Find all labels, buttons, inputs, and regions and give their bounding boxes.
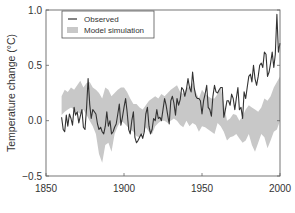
x-tick-label-1850: 1850 xyxy=(35,183,58,194)
legend-observed-label: Observed xyxy=(84,15,119,24)
legend-model-label: Model simulation xyxy=(84,26,144,35)
x-tick-label-2000: 2000 xyxy=(269,183,292,194)
y-tick-label-1: 1.0 xyxy=(28,5,42,16)
y-tick-label-neg-0-5: −0.5 xyxy=(22,171,42,182)
y-tick-label-0-5: 0.5 xyxy=(28,60,42,71)
legend-model-swatch xyxy=(67,27,78,33)
x-tick-label-1950: 1950 xyxy=(191,183,214,194)
temperature-chart: 1.0 0.5 0.0 −0.5 1850 1900 1950 2000 Tem… xyxy=(0,0,295,213)
y-tick-label-0: 0.0 xyxy=(28,115,42,126)
x-tick-label-1900: 1900 xyxy=(113,183,136,194)
legend: Observed Model simulation xyxy=(62,11,154,38)
y-axis-title: Temperature change (°C) xyxy=(5,34,17,152)
